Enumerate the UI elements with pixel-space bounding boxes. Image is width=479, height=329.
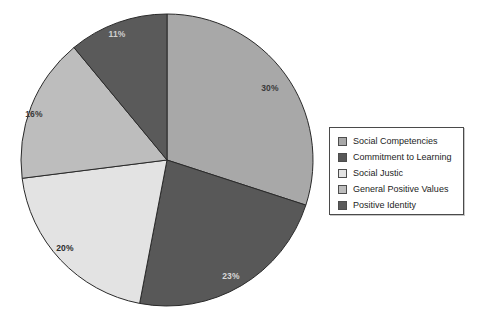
legend-item[interactable]: General Positive Values bbox=[338, 182, 456, 197]
legend-item-label: Commitment to Learning bbox=[353, 153, 452, 162]
legend-item-label: Social Competencies bbox=[353, 137, 438, 146]
legend-item-label: Positive Identity bbox=[353, 201, 416, 210]
pie-slice-label: 30% bbox=[261, 83, 279, 93]
legend-swatch-icon bbox=[338, 153, 347, 162]
legend-swatch-icon bbox=[338, 201, 347, 210]
chart-legend: Social CompetenciesCommitment to Learnin… bbox=[329, 127, 464, 215]
legend-item[interactable]: Social Justic bbox=[338, 166, 456, 181]
pie-slice-label: 11% bbox=[108, 29, 125, 39]
legend-item[interactable]: Commitment to Learning bbox=[338, 150, 456, 165]
legend-item-label: Social Justic bbox=[353, 169, 403, 178]
legend-item-label: General Positive Values bbox=[353, 185, 448, 194]
legend-item[interactable]: Social Competencies bbox=[338, 134, 456, 149]
legend-swatch-icon bbox=[338, 169, 347, 178]
pie-slice-label: 16% bbox=[25, 109, 43, 119]
pie-slice-label: 20% bbox=[56, 243, 74, 253]
legend-item[interactable]: Positive Identity bbox=[338, 198, 456, 213]
legend-swatch-icon bbox=[338, 185, 347, 194]
legend-swatch-icon bbox=[338, 137, 347, 146]
pie-slice-label: 23% bbox=[222, 271, 240, 281]
